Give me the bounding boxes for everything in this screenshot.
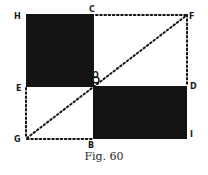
label-i: I	[190, 130, 193, 139]
label-c: C	[89, 5, 95, 14]
figure-caption: Fig. 60	[0, 150, 208, 163]
label-d: D	[190, 82, 197, 91]
label-h: H	[14, 12, 21, 21]
label-f: F	[189, 12, 194, 21]
geometric-diagram: H C F E O D G B I	[0, 0, 208, 175]
label-g: G	[14, 135, 21, 144]
label-e: E	[16, 84, 21, 93]
filled-rectangle-odib	[93, 86, 187, 139]
label-b: B	[88, 141, 94, 150]
label-o: O	[92, 71, 99, 80]
filled-square-hcoe	[26, 14, 94, 87]
